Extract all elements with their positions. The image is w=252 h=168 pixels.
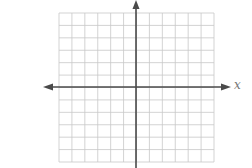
- y-axis-up-arrow-icon: [133, 0, 140, 9]
- coordinate-plane: [0, 0, 252, 168]
- x-axis-label: x: [234, 78, 241, 92]
- x-axis-right-arrow-icon: [221, 84, 231, 91]
- x-axis-left-arrow-icon: [43, 84, 53, 91]
